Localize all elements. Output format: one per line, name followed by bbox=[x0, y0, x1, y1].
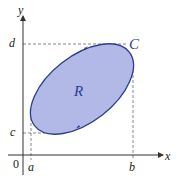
region-label: R bbox=[74, 84, 83, 99]
a-label: a bbox=[28, 161, 34, 173]
b-label: b bbox=[129, 161, 135, 173]
x-axis-label: x bbox=[165, 150, 170, 162]
curve-label: C bbox=[129, 37, 139, 52]
diagram-canvas bbox=[0, 0, 178, 186]
c-label: c bbox=[10, 126, 15, 138]
y-axis-label: y bbox=[18, 4, 23, 16]
region-diagram: y x 0 a b c d C R bbox=[0, 0, 178, 186]
origin-label: 0 bbox=[13, 158, 19, 170]
d-label: d bbox=[9, 37, 15, 49]
